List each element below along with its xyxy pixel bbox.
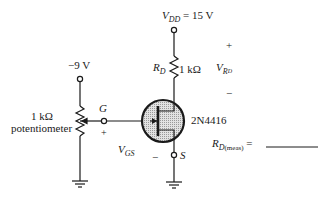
gate-supply-label: −9 V: [68, 60, 90, 71]
vgs-label: VGS: [118, 144, 135, 158]
gate-label: G: [99, 103, 107, 114]
circuit-schematic: [0, 0, 325, 201]
rd-value: 1 kΩ: [179, 64, 201, 75]
resistor-icon: [170, 56, 178, 78]
ground-icon-left: [72, 181, 88, 187]
source-label: S: [180, 150, 186, 161]
rd-meas-value[interactable]: [266, 136, 318, 147]
potentiometer-branch: [76, 76, 150, 181]
potentiometer-name: potentiometer: [11, 123, 72, 134]
potentiometer-value: 1 kΩ: [31, 111, 53, 122]
transistor-part-label: 2N4416: [191, 115, 226, 126]
source-terminal: [171, 152, 176, 157]
rd-label: RD: [153, 62, 166, 76]
vdd-terminal: [171, 27, 176, 32]
vrd-minus: −: [226, 88, 232, 99]
vgs-minus: −: [152, 152, 158, 163]
jfet-2n4416-icon: [142, 100, 184, 142]
gate-plus: +: [101, 128, 107, 138]
ground-icon-right: [166, 182, 182, 188]
vrd-plus: +: [226, 40, 232, 51]
drain-branch: [170, 27, 178, 104]
vrd-label: VRD: [216, 62, 232, 76]
gate-supply-terminal: [77, 76, 82, 81]
gate-terminal: [101, 118, 106, 123]
rd-meas-label: RD(meas) =: [212, 138, 253, 152]
vdd-label: VDD = 15 V: [162, 10, 214, 24]
